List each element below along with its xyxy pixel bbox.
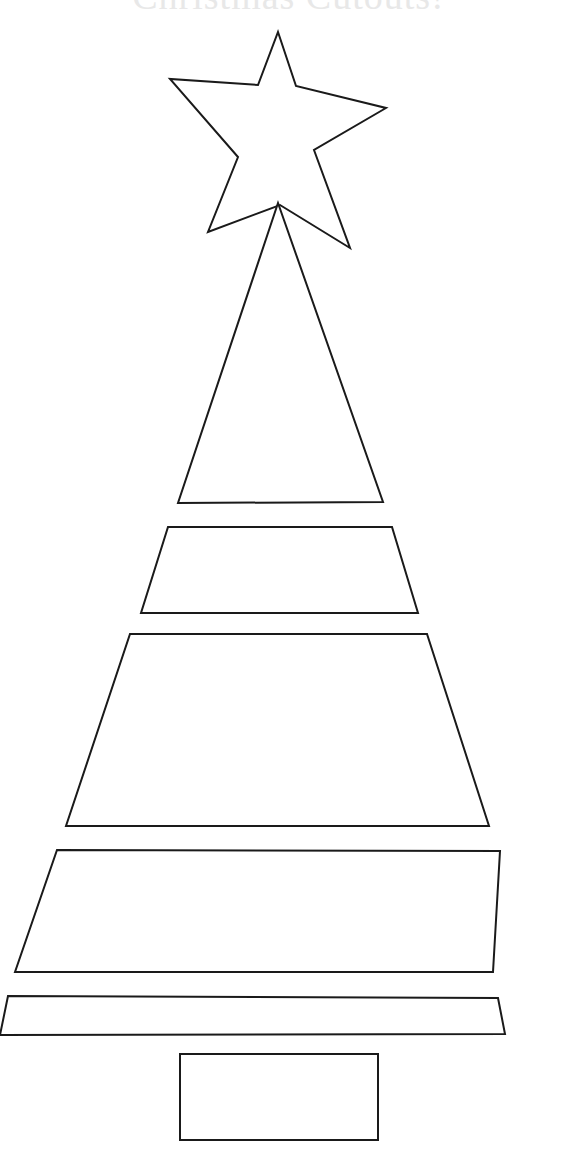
tree-tier-5-base-strip-shape xyxy=(0,996,505,1035)
tree-tier-4-trapezoid-shape xyxy=(15,850,500,972)
tree-tier-2-trapezoid-shape xyxy=(141,527,418,613)
cutout-template-page: Christmas Cutouts! xyxy=(0,0,577,1176)
tree-tier-1-triangle-shape xyxy=(178,203,383,503)
christmas-tree-cutout-artwork xyxy=(0,0,577,1176)
tree-trunk-rectangle-shape xyxy=(180,1054,378,1140)
tree-tier-3-trapezoid-shape xyxy=(66,634,489,826)
